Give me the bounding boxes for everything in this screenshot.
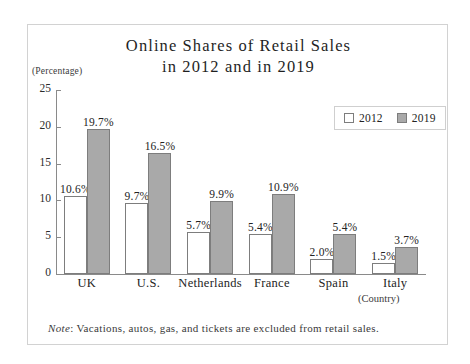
bar-value-label: 5.4%: [333, 221, 358, 233]
bar-2019-Netherlands[interactable]: 9.9%: [210, 201, 233, 274]
y-axis-tick-label: 10: [40, 192, 52, 204]
x-axis-category-label: U.S.: [137, 276, 160, 291]
bar-2012-Spain[interactable]: 2.0%: [310, 259, 333, 274]
y-axis-tick-mark: [57, 274, 61, 275]
bar-group: 1.5%3.7%Italy: [364, 90, 426, 274]
x-axis-category-label: Italy: [383, 276, 407, 291]
y-axis-tick-label: 15: [40, 156, 52, 168]
y-axis-unit-label: (Percentage): [32, 66, 82, 76]
x-axis-label: (Country): [358, 293, 399, 304]
bar-value-label: 5.4%: [248, 221, 273, 233]
bar-value-label: 2.0%: [310, 246, 335, 258]
bar-value-label: 3.7%: [394, 234, 419, 246]
bar-2019-Italy[interactable]: 3.7%: [395, 247, 418, 274]
x-axis-category-label: UK: [78, 276, 97, 291]
chart-note: Note: Vacations, autos, gas, and tickets…: [48, 322, 437, 334]
bar-2012-U.S.[interactable]: 9.7%: [125, 203, 148, 274]
bar-2012-France[interactable]: 5.4%: [249, 234, 272, 274]
y-axis-tick-label: 25: [40, 82, 52, 94]
note-keyword: Note: [48, 322, 70, 334]
bar-group: 5.4%10.9%France: [241, 90, 303, 274]
bar-value-label: 19.7%: [83, 116, 114, 128]
bar-value-label: 9.9%: [209, 188, 234, 200]
bar-2012-Italy[interactable]: 1.5%: [372, 263, 395, 274]
bar-2012-Netherlands[interactable]: 5.7%: [187, 232, 210, 274]
chart-title: Online Shares of Retail Sales in 2012 an…: [28, 35, 449, 77]
bar-value-label: 10.9%: [268, 181, 299, 193]
x-axis-category-label: France: [254, 276, 290, 291]
x-axis-category-label: Spain: [318, 276, 348, 291]
bar-2019-UK[interactable]: 19.7%: [87, 129, 110, 274]
chart-figure: Online Shares of Retail Sales in 2012 an…: [27, 24, 448, 345]
y-axis-tick-label: 20: [40, 119, 52, 131]
bar-group: 2.0%5.4%Spain: [303, 90, 365, 274]
bar-value-label: 16.5%: [145, 140, 176, 152]
bar-group: 10.6%19.7%UK: [56, 90, 118, 274]
bar-value-label: 5.7%: [186, 219, 211, 231]
chart-title-line-2: in 2012 and in 2019: [28, 56, 449, 77]
x-axis-category-label: Netherlands: [178, 276, 242, 291]
bar-group: 5.7%9.9%Netherlands: [179, 90, 241, 274]
x-axis-line: [56, 274, 426, 275]
bar-2019-France[interactable]: 10.9%: [272, 194, 295, 274]
bar-2019-U.S.[interactable]: 16.5%: [148, 153, 171, 274]
bar-value-label: 1.5%: [371, 250, 396, 262]
note-body: : Vacations, autos, gas, and tickets are…: [70, 322, 379, 334]
y-axis-tick-label: 5: [45, 229, 51, 241]
chart-title-line-1: Online Shares of Retail Sales: [28, 35, 449, 56]
y-axis-tick-label: 0: [45, 266, 51, 278]
bar-2012-UK[interactable]: 10.6%: [64, 196, 87, 274]
bar-2019-Spain[interactable]: 5.4%: [333, 234, 356, 274]
bar-group: 9.7%16.5%U.S.: [118, 90, 180, 274]
bar-value-label: 9.7%: [125, 190, 150, 202]
plot-area: 0510152025 10.6%19.7%UK9.7%16.5%U.S.5.7%…: [56, 90, 426, 274]
